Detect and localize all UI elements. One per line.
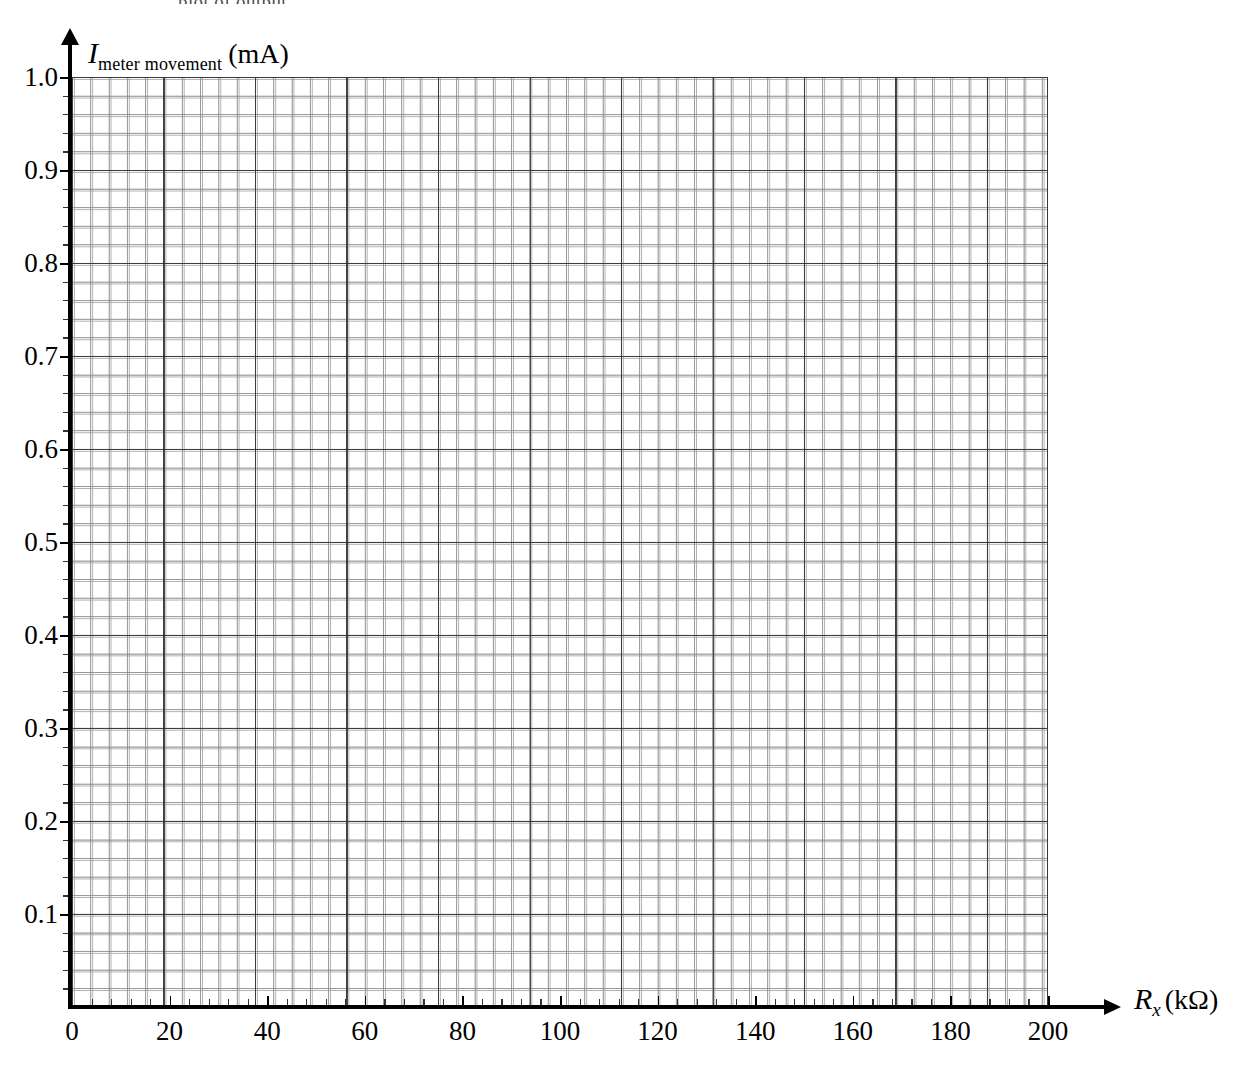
y-axis-title-variable: I [88, 36, 98, 69]
chart-graph-paper: 0.10.20.30.40.50.60.70.80.91.0 020406080… [0, 0, 1237, 1067]
x-tick-label: 160 [833, 1016, 874, 1047]
x-axis-title-unit: (kΩ) [1165, 984, 1218, 1015]
x-tick-label: 200 [1028, 1016, 1069, 1047]
x-tick-label: 80 [449, 1016, 476, 1047]
x-tick-label: 40 [254, 1016, 281, 1047]
x-tick-label: 60 [351, 1016, 378, 1047]
x-axis-title: Rx(kΩ) [1134, 982, 1218, 1021]
x-tick-label: 20 [156, 1016, 183, 1047]
x-tick-label: 0 [65, 1016, 79, 1047]
x-axis-tick-labels: 020406080100120140160180200 [0, 0, 1237, 1067]
x-tick-label: 180 [930, 1016, 971, 1047]
x-tick-label: 140 [735, 1016, 776, 1047]
y-axis-title-subscript: meter movement [98, 54, 222, 74]
x-axis-title-subscript: x [1152, 999, 1160, 1020]
y-axis-title: Imeter movement(mA) [88, 36, 289, 75]
y-axis-title-unit: (mA) [228, 38, 289, 69]
x-tick-label: 120 [637, 1016, 678, 1047]
x-tick-label: 100 [540, 1016, 581, 1047]
x-axis-title-variable: R [1134, 982, 1152, 1015]
